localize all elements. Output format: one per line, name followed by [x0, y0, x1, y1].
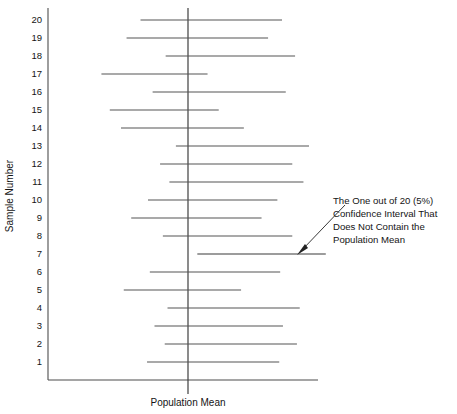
- y-tick-label-18: 18: [31, 50, 42, 61]
- confidence-interval-figure: 2019181716151413121110987654321 Sample N…: [0, 0, 457, 414]
- y-tick-label-6: 6: [37, 266, 42, 277]
- y-tick-label-12: 12: [31, 158, 42, 169]
- y-tick-label-4: 4: [37, 302, 42, 313]
- y-tick-label-9: 9: [37, 212, 42, 223]
- y-tick-label-3: 3: [37, 320, 42, 331]
- annotation-line-2: Confidence Interval That: [333, 208, 438, 219]
- y-tick-label-13: 13: [31, 140, 42, 151]
- y-tick-label-group: 2019181716151413121110987654321: [31, 14, 42, 367]
- y-tick-label-15: 15: [31, 104, 42, 115]
- y-tick-label-20: 20: [31, 14, 42, 25]
- y-tick-label-5: 5: [37, 284, 42, 295]
- annotation-line-3: Does Not Contain the: [333, 221, 425, 232]
- annotation-line-1: The One out of 20 (5%): [333, 195, 433, 206]
- y-tick-label-11: 11: [32, 176, 42, 187]
- plot-canvas: 2019181716151413121110987654321 Sample N…: [0, 0, 457, 414]
- y-tick-label-19: 19: [31, 32, 42, 43]
- y-tick-label-2: 2: [37, 338, 42, 349]
- x-axis-title: Population Mean: [150, 397, 225, 408]
- y-tick-label-1: 1: [37, 356, 42, 367]
- y-tick-label-16: 16: [31, 86, 42, 97]
- y-tick-label-10: 10: [31, 194, 42, 205]
- y-tick-label-8: 8: [37, 230, 42, 241]
- annotation-line-4: Population Mean: [333, 234, 405, 245]
- y-tick-label-14: 14: [31, 122, 42, 133]
- y-tick-label-17: 17: [31, 68, 42, 79]
- y-axis-title: Sample Number: [4, 159, 15, 232]
- y-tick-label-7: 7: [37, 248, 42, 259]
- confidence-interval-group: [101, 20, 325, 362]
